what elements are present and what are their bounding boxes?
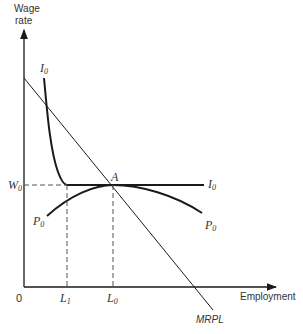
w0-sub: 0 bbox=[18, 184, 22, 193]
w0-main: W bbox=[8, 178, 18, 192]
mrpl-label: MRPL bbox=[196, 315, 224, 325]
mrpl-line bbox=[24, 78, 213, 310]
i0-top-label: I0 bbox=[40, 62, 48, 76]
p0-right-sub: 0 bbox=[212, 224, 216, 233]
l1-label: L1 bbox=[60, 292, 71, 306]
l1-main: L bbox=[60, 291, 67, 305]
diagram-canvas bbox=[0, 0, 303, 334]
p0-curve bbox=[47, 185, 202, 216]
origin-label: 0 bbox=[16, 293, 22, 304]
y-axis-label-line2: rate bbox=[15, 16, 32, 26]
l0-label: L0 bbox=[107, 292, 118, 306]
i0-top-sub: 0 bbox=[44, 67, 48, 76]
i0-right-label: I0 bbox=[208, 178, 216, 192]
p0-left-label: P0 bbox=[33, 215, 44, 229]
x-axis-label: Employment bbox=[240, 292, 296, 302]
point-a-label: A bbox=[111, 171, 118, 183]
i0-right-sub: 0 bbox=[212, 183, 216, 192]
l0-sub: 0 bbox=[114, 297, 118, 306]
l0-main: L bbox=[107, 291, 114, 305]
y-axis-label-line1: Wage bbox=[14, 4, 40, 14]
p0-left-sub: 0 bbox=[40, 220, 44, 229]
l1-sub: 1 bbox=[67, 297, 71, 306]
p0-right-label: P0 bbox=[205, 219, 216, 233]
w0-label: W0 bbox=[8, 179, 22, 193]
